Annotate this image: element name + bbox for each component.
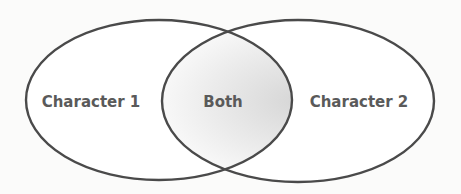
venn-diagram: Character 1 Both Character 2 bbox=[0, 0, 461, 194]
set-character-2-label: Character 2 bbox=[310, 95, 409, 110]
overlap-label: Both bbox=[203, 95, 243, 110]
set-character-1-label: Character 1 bbox=[42, 95, 141, 110]
